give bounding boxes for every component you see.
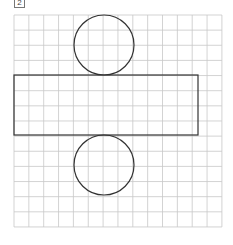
bottom-circle-base [74,135,134,195]
rectangle-lateral-surface [14,75,198,135]
grid-paper [14,15,222,227]
cylinder-net-figure [0,0,233,245]
